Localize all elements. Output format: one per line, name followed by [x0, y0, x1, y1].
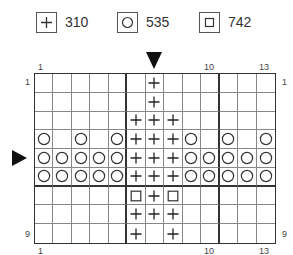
square-icon — [199, 12, 220, 33]
circle-icon — [202, 169, 216, 183]
grid-cell — [164, 112, 182, 131]
circle-icon — [74, 132, 88, 146]
col-label-top-10: 10 — [204, 62, 214, 72]
grid-cell — [183, 168, 201, 187]
circle-icon — [202, 151, 216, 165]
grid-cell — [238, 224, 256, 243]
circle-icon — [240, 151, 254, 165]
center-row-arrow-icon — [12, 150, 27, 166]
grid-cell — [164, 224, 182, 243]
grid-cell — [146, 112, 164, 131]
grid-cell — [109, 112, 127, 131]
circle-icon — [184, 151, 198, 165]
grid-cell — [35, 224, 53, 243]
plus-icon — [148, 96, 160, 108]
grid-cell — [127, 168, 145, 187]
grid-cell — [201, 149, 219, 168]
grid-cell — [146, 187, 164, 206]
grid-cell — [35, 205, 53, 224]
grid-cell — [238, 187, 256, 206]
col-label-bottom-1: 1 — [38, 246, 43, 255]
grid-cell — [201, 224, 219, 243]
grid-cell — [109, 93, 127, 112]
circle-icon — [55, 169, 69, 183]
grid-cell — [72, 130, 90, 149]
grid-cell — [90, 149, 108, 168]
grid-cell — [201, 187, 219, 206]
circle-icon — [74, 151, 88, 165]
legend-item-742: 742 — [199, 10, 251, 34]
grid-cell — [127, 149, 145, 168]
grid-cell — [220, 187, 238, 206]
grid-cell — [220, 205, 238, 224]
circle-icon — [259, 132, 273, 146]
grid-cell — [53, 149, 71, 168]
grid-cell — [109, 187, 127, 206]
grid-cell — [220, 112, 238, 131]
circle-icon — [92, 151, 106, 165]
grid-cell — [220, 130, 238, 149]
plus-icon — [130, 133, 142, 145]
grid-cell — [164, 130, 182, 149]
grid-cell — [238, 205, 256, 224]
plus-icon — [167, 152, 179, 164]
grid-cell — [90, 112, 108, 131]
circle-icon — [184, 132, 198, 146]
stitch-grid — [34, 73, 276, 244]
grid-cell — [35, 149, 53, 168]
grid-cell — [257, 74, 275, 93]
plus-icon — [167, 114, 179, 126]
grid-cell — [164, 93, 182, 112]
center-column-arrow-icon — [146, 52, 162, 69]
grid-cell — [53, 112, 71, 131]
grid-cell — [146, 149, 164, 168]
legend-label: 310 — [65, 14, 88, 30]
grid-cell — [164, 205, 182, 224]
grid-cell — [146, 224, 164, 243]
row-label-left-1: 1 — [25, 77, 30, 87]
grid-cell — [72, 205, 90, 224]
circle-icon — [92, 169, 106, 183]
grid-cell — [164, 187, 182, 206]
col-label-top-13: 13 — [259, 62, 269, 72]
grid-cell — [35, 93, 53, 112]
grid-cell — [35, 187, 53, 206]
grid-cell — [53, 130, 71, 149]
grid-cell — [90, 168, 108, 187]
legend-item-535: 535 — [117, 10, 169, 34]
square-icon — [167, 190, 179, 202]
legend-label: 742 — [228, 14, 251, 30]
grid-cell — [127, 224, 145, 243]
grid-cell — [238, 168, 256, 187]
grid-cell — [183, 74, 201, 93]
grid-cell — [220, 149, 238, 168]
grid-cell — [53, 168, 71, 187]
grid-cell — [146, 205, 164, 224]
grid-cell — [72, 93, 90, 112]
grid-cell — [109, 149, 127, 168]
grid-cell — [35, 168, 53, 187]
grid-cell — [109, 130, 127, 149]
grid-cell — [238, 74, 256, 93]
grid-cell — [127, 130, 145, 149]
row-label-right-1: 1 — [282, 77, 287, 87]
grid-cell — [238, 149, 256, 168]
legend-item-310: 310 — [36, 10, 88, 34]
grid-cell — [90, 205, 108, 224]
grid-cell — [183, 187, 201, 206]
grid-cell — [220, 168, 238, 187]
plus-icon — [36, 12, 57, 33]
plus-icon — [148, 114, 160, 126]
grid-cell — [109, 168, 127, 187]
circle-icon — [55, 151, 69, 165]
grid-cell — [72, 74, 90, 93]
grid-cell — [72, 112, 90, 131]
grid-cell — [127, 112, 145, 131]
row-label-right-9: 9 — [282, 229, 287, 239]
grid-cell — [183, 130, 201, 149]
grid-cell — [127, 187, 145, 206]
plus-icon — [148, 77, 160, 89]
grid-cell — [164, 74, 182, 93]
circle-icon — [240, 169, 254, 183]
plus-icon — [130, 152, 142, 164]
